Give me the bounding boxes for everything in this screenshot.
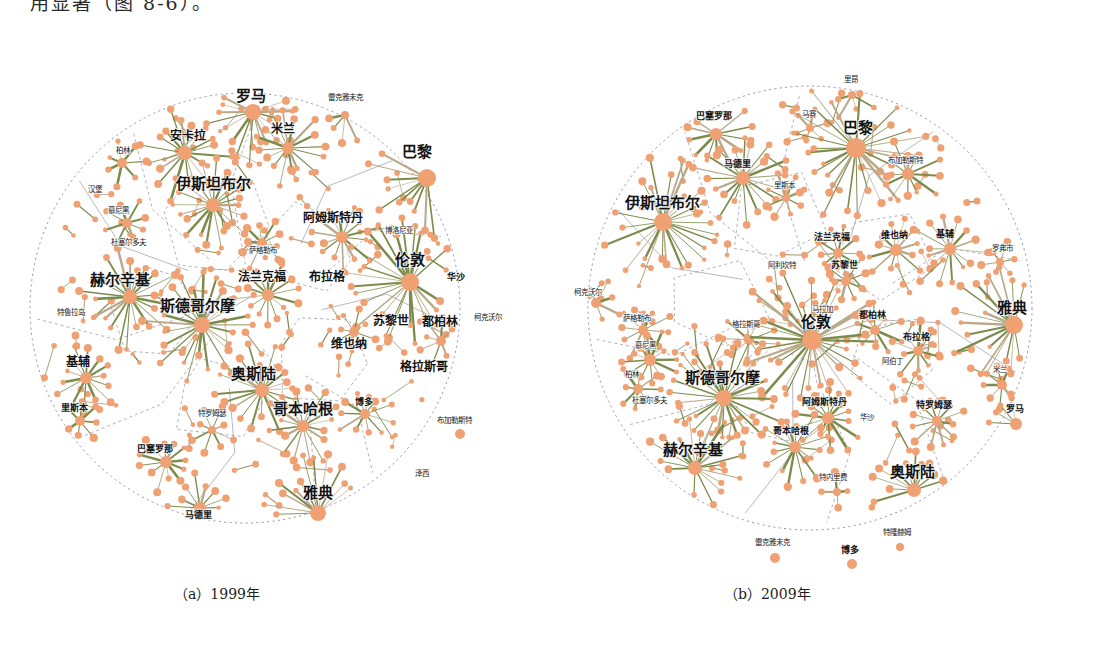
network-node [875,241,883,249]
network-node [363,322,369,328]
network-node [685,262,692,269]
network-node [412,209,417,214]
network-node [312,116,319,123]
network-node [600,316,605,321]
network-node [691,349,698,356]
network-node [858,376,863,381]
city-label: 布拉格 [902,331,931,342]
hub-node [802,330,822,350]
network-node [338,463,346,471]
network-node [444,353,450,359]
network-node [959,320,964,325]
network-node [143,158,151,166]
hub-node [654,213,672,231]
hub-node [633,384,643,394]
network-node [658,255,666,263]
network-node [296,286,302,292]
network-node [888,197,893,202]
network-node [353,291,358,296]
network-node [770,395,778,403]
network-node [336,373,340,377]
network-node [213,154,220,161]
network-node [817,431,823,437]
city-label: 巴塞罗那 [696,110,732,121]
network-node [770,213,778,221]
network-node [218,372,222,376]
network-node [749,123,756,130]
network-node [216,251,221,256]
hub-node [208,426,216,434]
network-node [230,437,237,444]
network-node [258,413,265,420]
city-label: 杜塞尔多夫 [632,395,668,405]
hub-node [890,244,902,256]
network-node [730,436,735,441]
network-node [779,101,786,108]
network-node [256,438,261,443]
network-node [722,420,727,425]
network-node [892,421,899,428]
network-node [811,411,819,419]
network-node [103,254,110,261]
city-label: 米兰 [993,364,1008,374]
network-node [798,202,805,209]
network-node [401,349,408,356]
network-node [671,378,676,383]
network-node [867,255,872,260]
network-node [784,419,790,425]
network-node [1016,355,1023,362]
network-node [288,167,296,175]
network-node [826,378,834,386]
city-label: 博洛尼亚 [385,225,414,235]
network-node [897,371,903,377]
network-node [936,280,943,287]
hub-node [782,194,790,202]
network-node [220,102,225,107]
network-node [803,137,809,143]
hub-node [644,354,656,366]
network-node [188,437,196,445]
network-node [178,212,183,217]
network-node [236,202,242,208]
hub-node [716,390,732,406]
network-node [711,238,717,244]
network-node [750,413,756,419]
network-node [191,470,198,477]
hub-node [1010,418,1022,430]
city-label: 哥本哈根 [273,400,333,418]
network-node [775,170,781,176]
network-node [874,339,879,344]
city-label: 慕尼黑 [635,340,657,350]
network-node [796,189,804,197]
network-node [743,221,751,229]
network-node [609,294,615,300]
hub-node [902,168,914,180]
network-node [646,154,654,162]
network-node [926,219,933,226]
network-node [1007,271,1012,276]
network-node [623,384,629,390]
network-node [103,316,107,320]
network-node [917,317,925,325]
network-node [105,362,111,368]
city-label: 格拉斯哥 [400,359,448,374]
network-node [691,359,698,366]
network-node [742,135,747,140]
network-node [861,331,869,339]
network-node [818,383,824,389]
hub-node [282,142,294,154]
network-node [281,369,288,376]
network-node [51,343,57,349]
hub-node [770,553,780,563]
network-node [157,360,164,367]
network-node [273,344,278,349]
hub-node [1005,316,1023,334]
network-node [178,274,184,280]
hub-node [117,158,127,168]
network-node [282,97,290,105]
network-node [732,146,739,153]
network-node [137,198,143,204]
network-node [927,443,935,451]
network-node [636,241,640,245]
network-node [697,430,704,437]
